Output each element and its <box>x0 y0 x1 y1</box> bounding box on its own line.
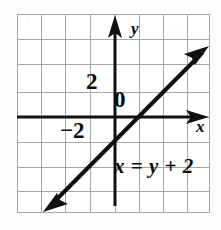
scan-speck <box>27 20 29 22</box>
scan-speck <box>87 200 89 202</box>
x-tick-label-negative-2: −2 <box>60 119 85 142</box>
origin-label: 0 <box>114 88 126 111</box>
y-axis-label: y <box>131 20 139 37</box>
line-arrowhead-lower-left <box>43 193 68 212</box>
y-tick-label-2: 2 <box>86 70 98 93</box>
plotted-line <box>17 14 210 213</box>
x-axis-label: x <box>196 118 205 135</box>
graph-figure: 2 0 −2 y x x = y + 2 <box>0 0 221 230</box>
plot-area <box>17 14 210 213</box>
scan-speck <box>175 26 177 27</box>
equation-label: x = y + 2 <box>114 156 194 177</box>
line-arrowhead-upper-right <box>184 46 209 65</box>
